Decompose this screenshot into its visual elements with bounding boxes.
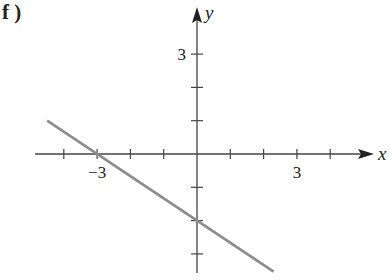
y-tick-label: 3: [178, 45, 187, 64]
data-line: [47, 121, 273, 272]
x-tick-label: −3: [88, 163, 106, 182]
x-tick-label: 3: [293, 163, 302, 182]
plot-area: −333xy: [0, 0, 390, 280]
chart-figure: f ) −333xy: [0, 0, 390, 280]
x-axis-label: x: [377, 143, 387, 164]
y-axis-label: y: [203, 2, 214, 23]
